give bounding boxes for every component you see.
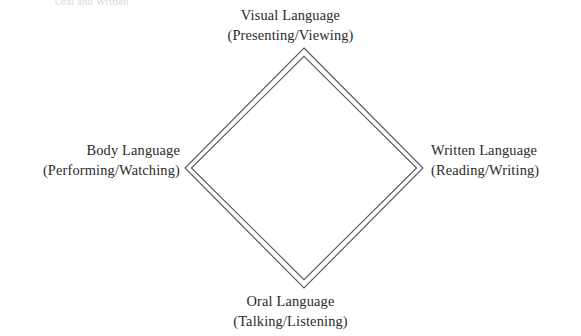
node-title-oral: Oral Language	[0, 292, 581, 312]
node-label-written-language: Written Language (Reading/Writing)	[431, 141, 581, 180]
diagram-canvas: Oral and Written Visual Language (Presen…	[0, 0, 581, 336]
inner-diamond-outline	[191, 56, 416, 279]
node-title-body: Body Language	[0, 141, 180, 161]
node-subtitle-oral: (Talking/Listening)	[0, 312, 581, 332]
node-subtitle-body: (Performing/Watching)	[0, 161, 180, 181]
outer-diamond-outline	[185, 48, 423, 288]
node-subtitle-visual: (Presenting/Viewing)	[0, 26, 581, 46]
node-title-visual: Visual Language	[0, 6, 581, 26]
node-subtitle-written: (Reading/Writing)	[431, 161, 581, 181]
node-label-visual-language: Visual Language (Presenting/Viewing)	[0, 6, 581, 45]
node-label-oral-language: Oral Language (Talking/Listening)	[0, 292, 581, 331]
node-title-written: Written Language	[431, 141, 581, 161]
node-label-body-language: Body Language (Performing/Watching)	[0, 141, 180, 180]
